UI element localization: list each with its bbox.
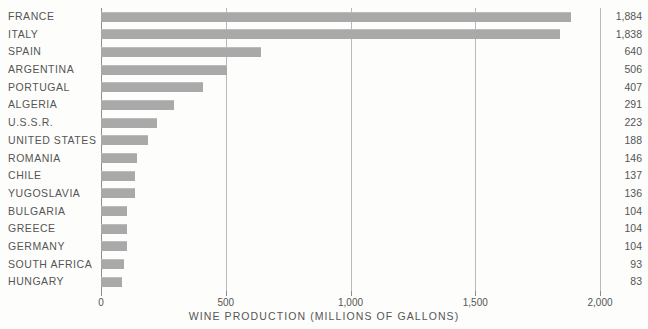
value-label: 104 xyxy=(606,203,648,221)
value-label: 104 xyxy=(606,238,648,256)
value-label: 223 xyxy=(606,114,648,132)
value-label: 83 xyxy=(606,273,648,291)
value-label: 506 xyxy=(606,61,648,79)
bar xyxy=(101,224,127,234)
value-label: 146 xyxy=(606,150,648,168)
category-label: ARGENTINA xyxy=(0,61,96,79)
bar xyxy=(101,153,137,163)
value-label: 407 xyxy=(606,79,648,97)
category-label: HUNGARY xyxy=(0,273,96,291)
bar-row xyxy=(101,273,600,291)
bar-row xyxy=(101,256,600,274)
bar-row xyxy=(101,220,600,238)
bar xyxy=(101,171,135,181)
x-tick-label: 0 xyxy=(98,297,104,308)
bar-row xyxy=(101,43,600,61)
category-label: PORTUGAL xyxy=(0,79,96,97)
category-axis-labels: FRANCEITALYSPAINARGENTINAPORTUGALALGERIA… xyxy=(0,8,96,291)
category-label: SOUTH AFRICA xyxy=(0,256,96,274)
category-label: U.S.S.R. xyxy=(0,114,96,132)
category-label: UNITED STATES xyxy=(0,132,96,150)
x-tick-label: 1,000 xyxy=(338,297,363,308)
x-tick-1500 xyxy=(475,291,476,296)
bar-row xyxy=(101,26,600,44)
bar xyxy=(101,118,157,128)
plot-area xyxy=(101,8,600,291)
category-label: FRANCE xyxy=(0,8,96,26)
bar xyxy=(101,277,122,287)
category-label: ITALY xyxy=(0,26,96,44)
bar xyxy=(101,135,148,145)
category-label: GREECE xyxy=(0,220,96,238)
bar xyxy=(101,47,261,57)
bar-row xyxy=(101,150,600,168)
value-label: 188 xyxy=(606,132,648,150)
bar xyxy=(101,29,560,39)
value-label: 136 xyxy=(606,185,648,203)
bar xyxy=(101,241,127,251)
bar xyxy=(101,100,174,110)
bar-row xyxy=(101,79,600,97)
gridline-2000 xyxy=(600,8,601,291)
bar-row xyxy=(101,167,600,185)
bar-row xyxy=(101,203,600,221)
x-axis-title: WINE PRODUCTION (MILLIONS OF GALLONS) xyxy=(0,310,648,322)
bar xyxy=(101,259,124,269)
value-label: 1,838 xyxy=(606,26,648,44)
category-label: YUGOSLAVIA xyxy=(0,185,96,203)
bar xyxy=(101,206,127,216)
bar-row xyxy=(101,114,600,132)
bar-row xyxy=(101,238,600,256)
x-tick-2000 xyxy=(600,291,601,296)
x-tick-0 xyxy=(101,291,102,296)
bar-row xyxy=(101,8,600,26)
bar xyxy=(101,12,571,22)
x-tick-label: 2,000 xyxy=(587,297,612,308)
value-label: 1,884 xyxy=(606,8,648,26)
value-label: 93 xyxy=(606,256,648,274)
bar-row xyxy=(101,61,600,79)
x-tick-1000 xyxy=(351,291,352,296)
value-label: 291 xyxy=(606,96,648,114)
x-tick-label: 1,500 xyxy=(463,297,488,308)
value-label: 640 xyxy=(606,43,648,61)
bar-series xyxy=(101,8,600,291)
category-label: GERMANY xyxy=(0,238,96,256)
bar-row xyxy=(101,132,600,150)
bar-row xyxy=(101,96,600,114)
bar xyxy=(101,65,227,75)
value-labels-column: 1,8841,838640506407291223188146137136104… xyxy=(606,8,648,291)
bar xyxy=(101,188,135,198)
x-tick-500 xyxy=(226,291,227,296)
category-label: ALGERIA xyxy=(0,96,96,114)
bar-row xyxy=(101,185,600,203)
category-label: SPAIN xyxy=(0,43,96,61)
bar xyxy=(101,82,203,92)
value-label: 104 xyxy=(606,220,648,238)
x-tick-label: 500 xyxy=(217,297,234,308)
wine-production-bar-chart: FRANCEITALYSPAINARGENTINAPORTUGALALGERIA… xyxy=(0,0,648,329)
category-label: CHILE xyxy=(0,167,96,185)
category-label: ROMANIA xyxy=(0,150,96,168)
category-label: BULGARIA xyxy=(0,203,96,221)
x-axis: 05001,0001,5002,000 xyxy=(101,291,600,311)
value-label: 137 xyxy=(606,167,648,185)
